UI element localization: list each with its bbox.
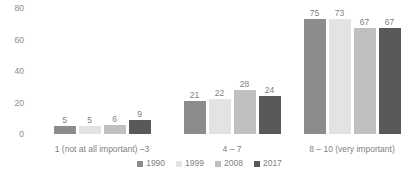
bar-rect[interactable] [209, 99, 231, 134]
bar-rect[interactable] [184, 101, 206, 134]
bar-rect[interactable] [129, 120, 151, 134]
legend-label: 2017 [263, 159, 282, 168]
bar-value-label: 21 [190, 90, 199, 100]
bar-chart: 020406080 55691 (not at all important) –… [0, 0, 419, 182]
legend-item[interactable]: 1990 [137, 159, 165, 168]
bar-item[interactable]: 5 [79, 8, 101, 134]
bar-group-bars: 75736767 [296, 8, 408, 134]
bar-group: 5569 [46, 8, 158, 134]
legend-item[interactable]: 2008 [215, 159, 243, 168]
y-axis-tick-label: 0 [0, 130, 24, 139]
legend-label: 2008 [224, 159, 243, 168]
x-axis-category-label: 1 (not at all important) –3 [46, 144, 158, 155]
bar-item[interactable]: 22 [209, 8, 231, 134]
bar-value-label: 67 [360, 17, 369, 27]
y-axis-tick-label: 20 [0, 98, 24, 107]
bar-item[interactable]: 28 [234, 8, 256, 134]
bar-item[interactable]: 6 [104, 8, 126, 134]
bar-item[interactable]: 67 [354, 8, 376, 134]
bar-rect[interactable] [104, 125, 126, 134]
legend-label: 1999 [185, 159, 204, 168]
legend-item[interactable]: 1999 [176, 159, 204, 168]
bar-value-label: 5 [87, 115, 92, 125]
bar-item[interactable]: 75 [304, 8, 326, 134]
bar-rect[interactable] [329, 19, 351, 134]
bar-value-label: 28 [240, 79, 249, 89]
x-axis-category-label: 8 – 10 (very important) [296, 144, 408, 155]
legend-swatch-icon [137, 161, 143, 167]
bar-item[interactable]: 21 [184, 8, 206, 134]
bar-item[interactable]: 67 [379, 8, 401, 134]
bar-value-label: 73 [335, 8, 344, 18]
bar-rect[interactable] [379, 28, 401, 134]
bar-value-label: 24 [265, 85, 274, 95]
bar-group: 75736767 [296, 8, 408, 134]
legend-swatch-icon [176, 161, 182, 167]
bar-group: 21222824 [176, 8, 288, 134]
bar-group-bars: 5569 [46, 8, 158, 134]
y-axis: 020406080 [0, 8, 24, 134]
y-axis-tick-label: 60 [0, 35, 24, 44]
bar-value-label: 9 [137, 109, 142, 119]
legend-item[interactable]: 2017 [254, 159, 282, 168]
bar-rect[interactable] [234, 90, 256, 134]
bar-value-label: 22 [215, 88, 224, 98]
bar-rect[interactable] [354, 28, 376, 134]
bar-item[interactable]: 5 [54, 8, 76, 134]
bar-group-bars: 21222824 [176, 8, 288, 134]
bar-item[interactable]: 73 [329, 8, 351, 134]
bar-value-label: 75 [310, 8, 319, 18]
y-axis-tick-label: 40 [0, 67, 24, 76]
bar-item[interactable]: 24 [259, 8, 281, 134]
bar-rect[interactable] [304, 19, 326, 134]
x-axis-category-label: 4 – 7 [176, 144, 288, 155]
legend-swatch-icon [254, 161, 260, 167]
legend-swatch-icon [215, 161, 221, 167]
bar-item[interactable]: 9 [129, 8, 151, 134]
bar-rect[interactable] [79, 126, 101, 134]
legend-label: 1990 [146, 159, 165, 168]
bar-value-label: 6 [112, 114, 117, 124]
bar-value-label: 67 [385, 17, 394, 27]
plot-area: 55691 (not at all important) –3212228244… [28, 8, 413, 134]
bar-value-label: 5 [62, 115, 67, 125]
chart-legend: 1990199920082017 [0, 159, 419, 168]
y-axis-tick-label: 80 [0, 4, 24, 13]
bar-rect[interactable] [259, 96, 281, 134]
bar-rect[interactable] [54, 126, 76, 134]
